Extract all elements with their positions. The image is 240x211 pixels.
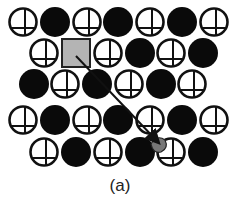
open-atom	[31, 40, 58, 67]
open-atom	[74, 107, 101, 134]
open-atom	[52, 71, 79, 98]
filled-atom	[82, 69, 112, 99]
open-atom	[74, 9, 101, 36]
open-atom	[95, 40, 122, 67]
filled-atom	[167, 7, 197, 37]
filled-atom	[103, 7, 133, 37]
open-atom	[10, 9, 37, 36]
open-atom	[137, 9, 164, 36]
filled-atom	[40, 7, 70, 37]
migration-overlay	[76, 56, 166, 152]
filled-atom	[188, 38, 218, 68]
filled-atom	[61, 137, 91, 167]
vacancy-square	[62, 39, 90, 67]
open-atom	[201, 9, 228, 36]
open-atom	[116, 71, 143, 98]
open-atom	[10, 107, 37, 134]
atom-lattice	[10, 7, 228, 167]
filled-atom	[188, 137, 218, 167]
open-atom	[137, 107, 164, 134]
open-atom	[31, 139, 58, 166]
filled-atom	[125, 38, 155, 68]
filled-atom	[125, 137, 155, 167]
filled-atom	[146, 69, 176, 99]
open-atom	[201, 107, 228, 134]
filled-atom	[103, 105, 133, 135]
open-atom	[158, 40, 185, 67]
displaced-atom	[151, 138, 166, 153]
figure-caption: (a)	[0, 176, 240, 196]
filled-atom	[167, 105, 197, 135]
filled-atom	[19, 69, 49, 99]
filled-atom	[40, 105, 70, 135]
open-atom	[95, 139, 122, 166]
open-atom	[179, 71, 206, 98]
